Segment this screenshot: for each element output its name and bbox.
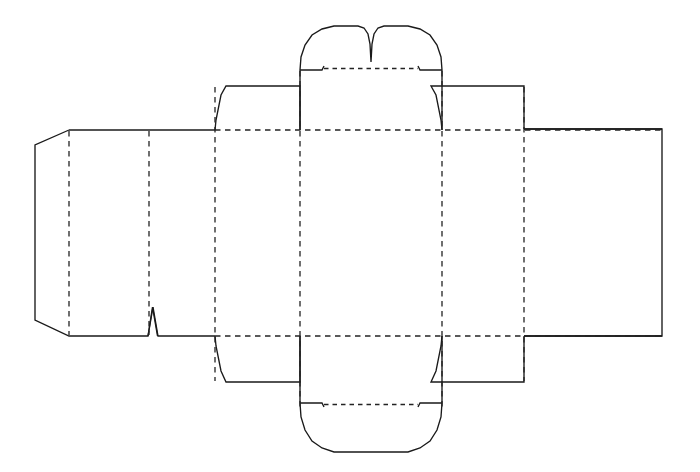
bottom-right-dust-flap-outline xyxy=(431,336,524,382)
top-right-dust-flap-outline xyxy=(431,86,524,130)
bottom-tuck-tab-left-shoulder xyxy=(300,403,324,407)
top-left-dust-flap-outline xyxy=(215,86,300,130)
bottom-tuck-flap-outline xyxy=(300,336,442,452)
bottom-tuck-tab-right-shoulder xyxy=(418,403,442,407)
dieline-canvas xyxy=(0,0,700,472)
top-tuck-tab-left-shoulder xyxy=(300,66,324,70)
crease-lines-group xyxy=(69,69,662,409)
bottom-left-dust-flap-outline xyxy=(215,336,300,382)
cut-lines-group xyxy=(35,26,662,452)
top-tuck-flap-outline xyxy=(300,26,442,130)
dieline-drawing xyxy=(0,0,700,472)
glue-flap-outline xyxy=(35,130,215,336)
top-tuck-tab-right-shoulder xyxy=(418,66,442,70)
rear-panel-outline xyxy=(524,129,662,336)
